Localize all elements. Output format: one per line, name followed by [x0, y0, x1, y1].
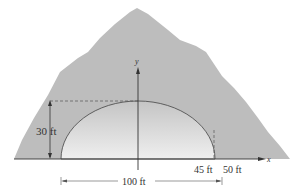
- tunnel-diagram: 30 ft x y 45 ft 50 ft 100 ft: [0, 0, 294, 194]
- label-50ft: 50 ft: [223, 164, 242, 175]
- x-axis-label: x: [266, 155, 271, 164]
- width-arrow-right-icon: [216, 180, 222, 183]
- label-45ft: 45 ft: [194, 164, 213, 175]
- y-axis-label: y: [134, 57, 139, 66]
- height-label: 30 ft: [36, 125, 56, 137]
- width-arrow-left-icon: [61, 180, 67, 183]
- width-label: 100 ft: [122, 176, 146, 187]
